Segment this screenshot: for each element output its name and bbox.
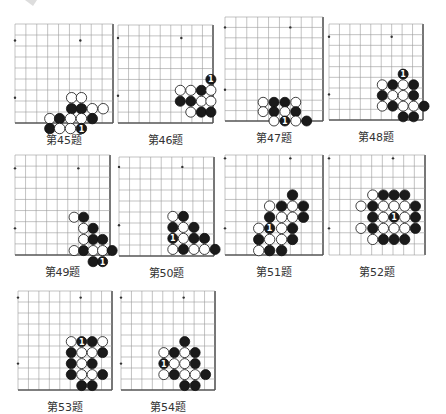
- white-stone: [389, 223, 399, 233]
- go-board-problem-53: 1: [18, 291, 124, 402]
- white-stone: [168, 211, 178, 221]
- white-stone: [186, 107, 196, 117]
- white-stone: [189, 244, 199, 254]
- problem-caption-50: 第50题: [137, 264, 197, 280]
- white-stone: [409, 101, 419, 111]
- white-stone: [180, 370, 190, 380]
- problem-caption-52: 第52题: [347, 263, 407, 279]
- black-stone: [66, 370, 76, 380]
- white-stone: [400, 223, 410, 233]
- black-stone: [190, 359, 200, 369]
- move-number-label: 1: [400, 70, 406, 79]
- star-point: [328, 157, 330, 159]
- star-point: [328, 227, 330, 229]
- star-point: [224, 227, 226, 229]
- black-stone: [66, 103, 76, 113]
- black-stone: [410, 201, 420, 211]
- white-stone: [276, 234, 286, 244]
- white-stone: [378, 223, 388, 233]
- white-stone: [398, 80, 408, 90]
- black-stone: [87, 113, 97, 123]
- star-point: [14, 97, 16, 99]
- white-stone: [168, 244, 178, 254]
- white-stone: [378, 212, 388, 222]
- black-stone: [368, 201, 378, 211]
- black-stone: [169, 370, 179, 380]
- white-stone: [377, 80, 387, 90]
- black-stone: [175, 96, 185, 106]
- black-stone: [400, 190, 410, 200]
- white-stone: [377, 101, 387, 111]
- black-stone: [196, 107, 206, 117]
- white-stone: [400, 212, 410, 222]
- white-stone: [287, 212, 297, 222]
- problem-caption-46: 第46题: [136, 131, 196, 147]
- corner-decoration: [25, 0, 225, 8]
- black-stone: 1: [98, 257, 108, 267]
- white-stone: [291, 97, 301, 107]
- black-stone: [276, 245, 286, 255]
- move-number-label: 1: [391, 213, 397, 222]
- white-stone: [398, 90, 408, 100]
- black-stone: [280, 97, 290, 107]
- move-number-label: 1: [161, 360, 167, 369]
- star-point: [79, 296, 81, 298]
- white-stone: [254, 245, 264, 255]
- black-stone: [368, 223, 378, 233]
- go-board-problem-50: 1: [119, 157, 226, 268]
- black-stone: [287, 223, 297, 233]
- white-stone: [87, 370, 97, 380]
- black-stone: [190, 381, 200, 391]
- star-point: [79, 39, 81, 41]
- white-stone: [98, 337, 108, 347]
- black-stone: 1: [77, 337, 87, 347]
- black-stone: [66, 359, 76, 369]
- black-stone: [88, 234, 98, 244]
- black-stone: [87, 381, 97, 391]
- white-stone: [258, 107, 268, 117]
- star-point: [77, 167, 79, 169]
- black-stone: [87, 337, 97, 347]
- star-point: [120, 296, 122, 298]
- black-stone: [79, 212, 89, 222]
- black-stone: [377, 90, 387, 100]
- white-stone: [159, 348, 169, 358]
- star-point: [328, 93, 330, 95]
- white-stone: [45, 113, 55, 123]
- white-stone: [178, 233, 188, 243]
- white-stone: [180, 348, 190, 358]
- white-stone: [368, 234, 378, 244]
- white-stone: [388, 90, 398, 100]
- go-board-problem-47: 1: [225, 17, 335, 133]
- white-stone: [264, 234, 274, 244]
- black-stone: [291, 107, 301, 117]
- black-stone: [287, 234, 297, 244]
- white-stone: [169, 359, 179, 369]
- white-stone: [206, 96, 216, 106]
- white-stone: [98, 245, 108, 255]
- white-stone: [378, 201, 388, 211]
- white-stone: [276, 212, 286, 222]
- star-point: [392, 157, 394, 159]
- white-stone: [190, 370, 200, 380]
- move-number-label: 1: [267, 224, 273, 233]
- go-board-problem-46: 1: [118, 25, 225, 135]
- white-stone: [400, 201, 410, 211]
- white-stone: [389, 201, 399, 211]
- white-stone: [356, 201, 366, 211]
- move-number-label: 1: [282, 117, 288, 126]
- star-point: [14, 167, 16, 169]
- black-stone: [168, 222, 178, 232]
- black-stone: 1: [206, 74, 216, 84]
- black-stone: [389, 234, 399, 244]
- white-stone: [398, 101, 408, 111]
- black-stone: [264, 245, 274, 255]
- star-point: [328, 36, 330, 38]
- white-stone: [258, 97, 268, 107]
- problem-caption-47: 第47题: [244, 129, 304, 145]
- black-stone: [77, 381, 87, 391]
- black-stone: [264, 212, 274, 222]
- black-stone: 1: [264, 223, 274, 233]
- black-stone: [178, 211, 188, 221]
- black-stone: [98, 370, 108, 380]
